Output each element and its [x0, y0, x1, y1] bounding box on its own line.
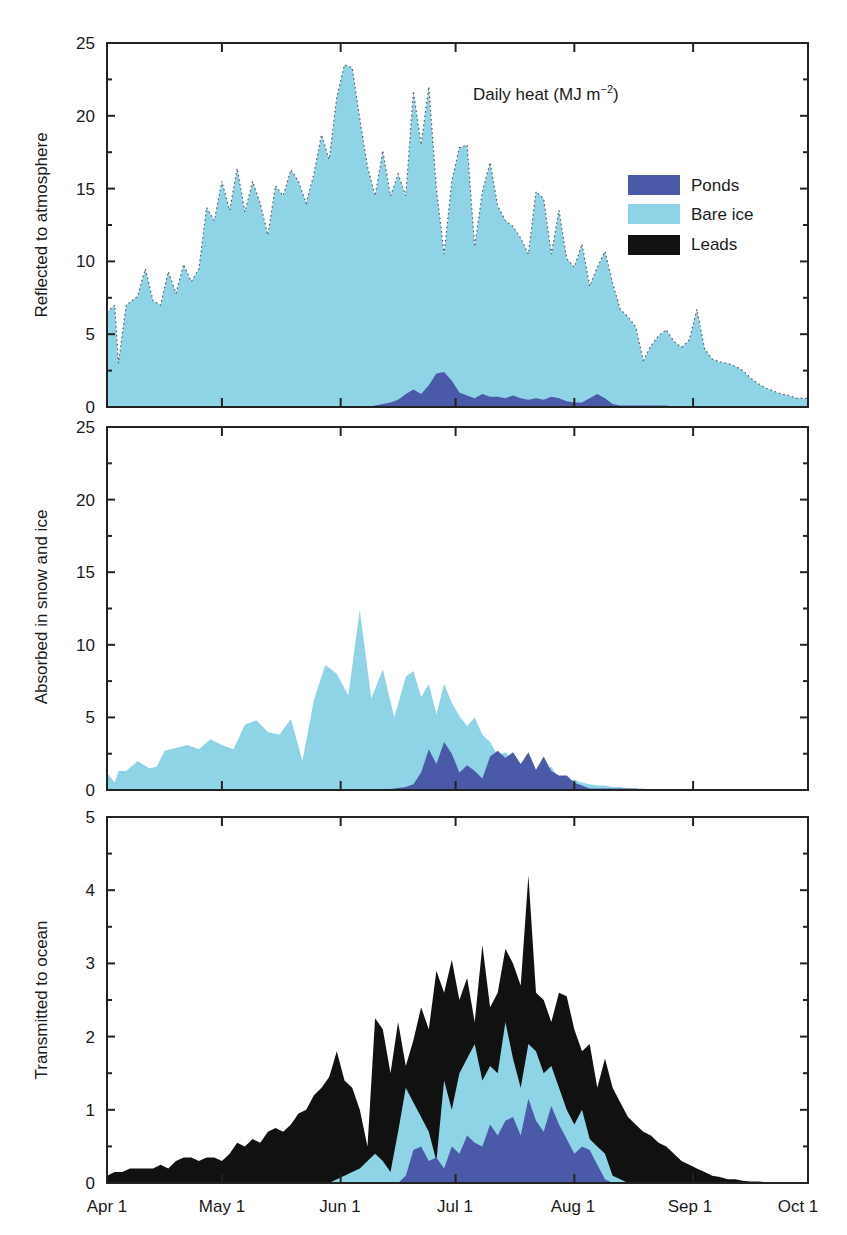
y-tick-label: 4 — [86, 881, 95, 900]
daily-heat-figure: 0510152025 0510152025 012345 Daily heat … — [0, 0, 847, 1235]
y-tick-label: 10 — [76, 252, 95, 271]
y-tick-label: 2 — [86, 1028, 95, 1047]
legend-label-ponds: Ponds — [691, 176, 739, 195]
x-tick-label: May 1 — [199, 1197, 245, 1216]
y-tick-label: 25 — [76, 34, 95, 53]
y-tick-label: 1 — [86, 1101, 95, 1120]
bare-ice-swatch — [628, 204, 680, 224]
y-tick-label: 3 — [86, 954, 95, 973]
y-tick-label: 20 — [76, 491, 95, 510]
x-tick-label: Jun 1 — [319, 1197, 361, 1216]
y-axis-title-bottom: Transmitted to ocean — [32, 920, 51, 1079]
y-tick-label: 5 — [86, 325, 95, 344]
x-tick-label: Oct 1 — [778, 1197, 819, 1216]
y-tick-label: 0 — [86, 398, 95, 417]
x-tick-label: Sep 1 — [668, 1197, 712, 1216]
y-tick-label: 5 — [86, 808, 95, 827]
legend-item-leads: Leads — [628, 235, 737, 255]
y-tick-label: 10 — [76, 636, 95, 655]
ponds-swatch — [628, 175, 680, 195]
chart-title: Daily heat (MJ m−2) — [473, 83, 619, 104]
y-tick-label: 20 — [76, 107, 95, 126]
y-axis-title-top: Reflected to atmosphere — [32, 132, 51, 317]
panel-transmitted-to-ocean: 012345 — [86, 808, 808, 1193]
legend-label-bare-ice: Bare ice — [691, 205, 753, 224]
y-axis-title-middle: Absorbed in snow and ice — [32, 510, 51, 705]
y-tick-label: 0 — [86, 1174, 95, 1193]
x-axis-labels: Apr 1 May 1 Jun 1 Jul 1 Aug 1 Sep 1 Oct … — [87, 1197, 819, 1216]
y-tick-label: 15 — [76, 563, 95, 582]
panel-absorbed-in-snow-and-ice: 0510152025 — [76, 418, 808, 800]
legend-item-bare-ice: Bare ice — [628, 204, 753, 224]
y-tick-label: 0 — [86, 781, 95, 800]
legend-label-leads: Leads — [691, 235, 737, 254]
legend-item-ponds: Ponds — [628, 175, 739, 195]
leads-swatch — [628, 235, 680, 255]
y-tick-label: 25 — [76, 418, 95, 437]
x-tick-label: Jul 1 — [437, 1197, 473, 1216]
bare-ice-area — [107, 610, 808, 790]
y-tick-label: 15 — [76, 180, 95, 199]
legend: Ponds Bare ice Leads — [628, 175, 753, 255]
x-tick-label: Aug 1 — [551, 1197, 595, 1216]
panel-reflected-to-atmosphere: 0510152025 — [76, 34, 808, 417]
x-tick-label: Apr 1 — [87, 1197, 128, 1216]
y-tick-label: 5 — [86, 708, 95, 727]
